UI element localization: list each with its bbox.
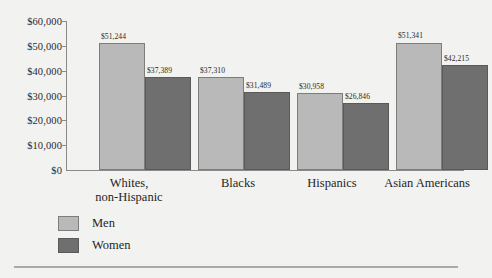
legend-item-women: Women: [58, 234, 218, 256]
bar-value-label: $26,846: [345, 92, 370, 101]
bar-men-blacks: [198, 77, 244, 170]
bar-value-label: $37,310: [200, 66, 225, 75]
bar-value-label: $51,341: [398, 31, 423, 40]
y-axis-tick-label: $0: [0, 165, 62, 176]
y-axis-tick-label: $60,000: [0, 16, 62, 27]
bar-men-hispanics: [297, 93, 343, 170]
legend-swatch-women-icon: [58, 238, 79, 253]
x-axis-line: [66, 170, 464, 171]
category-label-line: non-Hispanic: [59, 190, 199, 204]
bar-men-asian-americans: [396, 43, 442, 171]
y-axis-tick-label: $20,000: [0, 115, 62, 126]
category-label-line: Asian Americans: [362, 176, 492, 190]
legend-swatch-men-icon: [58, 216, 79, 231]
y-axis-tick: [61, 120, 67, 121]
y-axis-tick-labels: $60,000 $50,000 $40,000 $30,000 $20,000 …: [0, 21, 62, 171]
bar-men-whites: [99, 43, 145, 170]
bar-women-hispanics: [343, 103, 389, 170]
y-axis-tick: [61, 46, 67, 47]
bar-women-asian-americans: [442, 65, 488, 170]
y-axis-tick: [61, 96, 67, 97]
legend-label-women: Women: [92, 238, 131, 252]
y-axis-tick-label: $10,000: [0, 140, 62, 151]
bar-value-label: $30,958: [299, 82, 324, 91]
x-axis-category-label-asian-americans: Asian Americans: [362, 176, 492, 190]
y-axis-tick: [61, 145, 67, 146]
legend-label-men: Men: [92, 216, 115, 230]
bar-women-whites: [145, 77, 191, 170]
bar-value-label: $42,215: [444, 54, 469, 63]
bar-value-label: $37,389: [147, 66, 172, 75]
y-axis-tick-label: $30,000: [0, 91, 62, 102]
chart-legend: Men Women: [58, 212, 218, 256]
y-axis-tick: [61, 21, 67, 22]
plot-area: $51,244 $37,389 $37,310 $31,489 $30,958 …: [66, 21, 464, 170]
y-axis-tick: [61, 71, 67, 72]
bar-women-blacks: [244, 92, 290, 170]
bar-value-label: $31,489: [246, 81, 271, 90]
bottom-divider: [14, 266, 458, 268]
legend-item-men: Men: [58, 212, 218, 234]
y-axis-tick-label: $50,000: [0, 41, 62, 52]
bar-value-label: $51,244: [101, 32, 126, 41]
y-axis-tick-label: $40,000: [0, 66, 62, 77]
